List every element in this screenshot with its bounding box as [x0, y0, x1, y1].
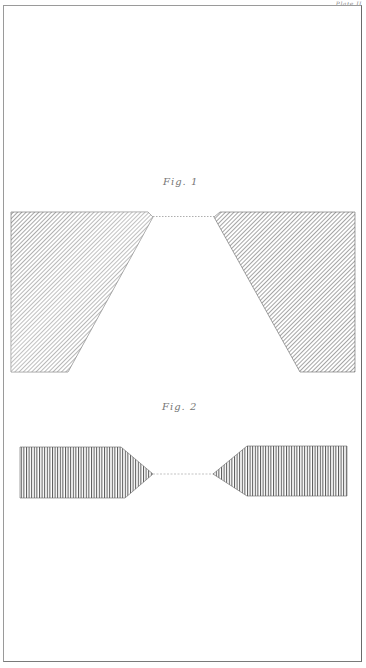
plate-diagram	[0, 0, 366, 668]
figure-1-left-shading	[11, 212, 153, 372]
figure-1	[11, 212, 355, 372]
figure-2-left-block	[20, 447, 153, 498]
figure-2	[20, 446, 347, 498]
figure-2-right-block	[213, 446, 347, 496]
figure-1-right-block	[214, 212, 355, 372]
